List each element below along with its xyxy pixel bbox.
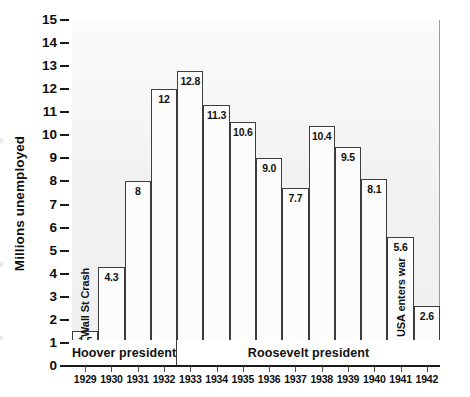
- y-axis-tick-mark: [60, 204, 69, 206]
- y-axis-tick-label: 11: [31, 105, 57, 119]
- y-axis-tick-label: 1: [31, 336, 57, 350]
- y-axis-tick-label: 9: [31, 151, 57, 165]
- y-axis-tick-mark: [60, 88, 69, 90]
- y-axis-tick-mark: [60, 296, 69, 298]
- bar-value-label: 10.4: [310, 131, 334, 142]
- x-axis-tick-mark: [427, 366, 428, 372]
- bar-value-label: 2.6: [415, 311, 439, 322]
- y-axis-tick-mark: [60, 19, 69, 21]
- y-axis-tick-mark: [60, 342, 69, 344]
- y-axis-tick-label: 0: [31, 359, 57, 373]
- bar: 8.1: [361, 179, 387, 366]
- bars-layer: 1.5Wall St Crash4.381212.811.310.69.07.7…: [72, 20, 440, 366]
- x-axis-tick-marks: [72, 366, 440, 373]
- bar-value-label: 9.0: [257, 163, 281, 174]
- x-axis-tick-label: 1932: [151, 374, 177, 386]
- bar-value-label: 5.6: [388, 242, 412, 253]
- y-axis-tick-label: 15: [31, 13, 57, 27]
- scan-artifact: [0, 336, 3, 340]
- bar-value-label: 9.5: [336, 152, 360, 163]
- bar: 9.0: [256, 158, 282, 366]
- x-axis-tick-label: 1936: [256, 374, 282, 386]
- y-axis-tick-mark: [60, 227, 69, 229]
- x-axis-tick-label: 1940: [361, 374, 387, 386]
- x-axis-tick-label: 1938: [309, 374, 335, 386]
- bar-value-label: 10.6: [231, 127, 255, 138]
- bar: 10.4: [309, 126, 335, 366]
- y-axis-tick-label: 7: [31, 198, 57, 212]
- y-axis-tick-mark: [60, 273, 69, 275]
- x-axis-tick-mark: [217, 366, 218, 372]
- y-axis-title: Millions unemployed: [12, 99, 27, 309]
- y-axis-tick-label: 3: [31, 290, 57, 304]
- y-axis-tick-mark: [60, 319, 69, 321]
- y-axis-tick-mark: [60, 134, 69, 136]
- y-axis-tick-mark: [60, 65, 69, 67]
- bar-value-label: 8: [126, 186, 150, 197]
- x-axis-tick-mark: [348, 366, 349, 372]
- y-axis-tick-label: 5: [31, 244, 57, 258]
- y-axis-tick-label: 8: [31, 174, 57, 188]
- y-axis-tick-label: 2: [31, 313, 57, 327]
- bar: 8: [125, 181, 151, 366]
- bar-value-label: 7.7: [283, 193, 307, 204]
- y-axis-tick-mark: [60, 157, 69, 159]
- x-axis-tick-label: 1937: [282, 374, 308, 386]
- bar-value-label: 12: [152, 94, 176, 105]
- bar-value-label: 12.8: [178, 76, 202, 87]
- president-band: Hoover president: [72, 340, 177, 366]
- president-band-label: Roosevelt president: [248, 346, 369, 360]
- scan-artifact: [0, 138, 3, 143]
- y-axis-tick-label: 14: [31, 36, 57, 50]
- x-axis-tick-mark: [401, 366, 402, 372]
- x-axis-tick-label: 1931: [125, 374, 151, 386]
- bar-annotation: Wall St Crash: [79, 268, 91, 337]
- x-axis-tick-mark: [322, 366, 323, 372]
- x-axis-tick-mark: [190, 366, 191, 372]
- y-axis-tick-label: 4: [31, 267, 57, 281]
- x-axis-tick-mark: [85, 366, 86, 372]
- x-axis-tick-mark: [295, 366, 296, 372]
- x-axis-tick-label: 1933: [177, 374, 203, 386]
- x-axis-tick-label: 1930: [98, 374, 124, 386]
- x-axis-tick-labels: 1929193019311932193319341935193619371938…: [72, 374, 440, 392]
- x-axis-tick-label: 1934: [203, 374, 229, 386]
- y-axis-tick-mark: [60, 180, 69, 182]
- x-axis-tick-mark: [111, 366, 112, 372]
- x-axis-tick-mark: [138, 366, 139, 372]
- x-axis-tick-label: 1939: [335, 374, 361, 386]
- y-axis-tick-mark: [60, 111, 69, 113]
- y-axis-tick-mark: [60, 250, 69, 252]
- bar-annotation: USA enters war: [395, 258, 407, 338]
- bar-value-label: 11.3: [204, 110, 228, 121]
- y-axis-tick-mark: [60, 42, 69, 44]
- bar: 11.3: [203, 105, 229, 366]
- x-axis-tick-label: 1929: [72, 374, 98, 386]
- y-axis-tick-label: 6: [31, 221, 57, 235]
- x-axis-tick-label: 1941: [387, 374, 413, 386]
- y-axis-tick-label: 10: [31, 128, 57, 142]
- y-axis-tick-label: 12: [31, 82, 57, 96]
- scan-artifact: [0, 262, 3, 267]
- bar-value-label: 8.1: [362, 184, 386, 195]
- y-axis-tick-label: 13: [31, 59, 57, 73]
- bar: 12.8: [177, 71, 203, 366]
- bar: 10.6: [230, 122, 256, 367]
- y-axis-tick-labels: 0123456789101112131415: [31, 0, 57, 397]
- president-bands: Hoover presidentRoosevelt president: [72, 340, 440, 366]
- x-axis-tick-label: 1935: [230, 374, 256, 386]
- bar: 9.5: [335, 147, 361, 366]
- x-axis-tick-mark: [269, 366, 270, 372]
- x-axis-tick-mark: [243, 366, 244, 372]
- bar: 12: [151, 89, 177, 366]
- unemployment-bar-chart: Millions unemployed 01234567891011121314…: [0, 0, 470, 397]
- president-band: Roosevelt president: [177, 340, 440, 366]
- x-axis-tick-mark: [374, 366, 375, 372]
- bar-value-label: 4.3: [99, 272, 123, 283]
- x-axis-tick-label: 1942: [414, 374, 440, 386]
- president-band-label: Hoover president: [72, 346, 176, 360]
- x-axis-tick-mark: [164, 366, 165, 372]
